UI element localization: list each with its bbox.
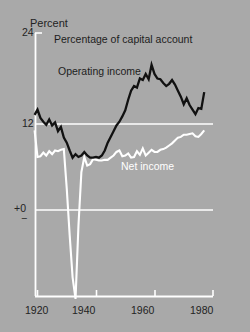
y-axis-label: Percent bbox=[30, 18, 68, 29]
x-tick-label-1960: 1960 bbox=[131, 305, 154, 316]
x-tick-label-1940: 1940 bbox=[72, 305, 95, 316]
x-tick-label-1980: 1980 bbox=[190, 305, 213, 316]
series-label-operating-income: Operating income bbox=[58, 66, 141, 77]
x-tick-marks bbox=[38, 290, 214, 296]
series-label-net-income: Net income bbox=[121, 161, 174, 172]
chart-figure: Percent 24 12 +0 − 1920 1940 1960 1980 P… bbox=[0, 0, 250, 332]
y-tick-label-minus: − bbox=[21, 213, 27, 224]
y-tick-label-12: 12 bbox=[22, 118, 34, 129]
x-tick-label-1920: 1920 bbox=[25, 305, 48, 316]
series-line-operating-income bbox=[35, 65, 205, 158]
y-tick-label-24: 24 bbox=[22, 27, 34, 38]
chart-title: Percentage of capital account bbox=[54, 34, 192, 45]
series-line-net-income bbox=[35, 130, 205, 298]
